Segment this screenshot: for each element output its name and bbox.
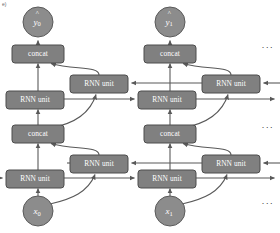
input-x0: x0 [23,196,53,226]
edge-rnn-backward-upper-t1-to-concat-upper-t1 [183,64,231,76]
ellipsis-bottom: ... [262,196,274,206]
concat-upper-t0: concat [12,45,64,63]
edge-rnn-backward-lower-t1-to-concat-lower-t1 [183,144,231,156]
rnn-backward-upper-t1-label: RNN unit [216,79,247,88]
rnn-forward-lower-t1-label: RNN unit [152,174,183,183]
rnn-architecture-diagram: y0 ^ concat RNN unit RNN unit concat RNN… [0,0,280,233]
concat-lower-t1-label: concat [160,129,181,138]
rnn-backward-lower-t1-label: RNN unit [216,159,247,168]
concat-lower-t0-label: concat [28,129,49,138]
rnn-forward-lower-t0: RNN unit [6,170,64,188]
edge-rnn-backward-upper-t0-to-concat-upper-t0 [51,64,99,76]
rnn-backward-upper-t1: RNN unit [202,75,260,93]
rnn-backward-lower-t0-label: RNN unit [84,159,115,168]
input-x1: x1 [155,196,185,226]
concat-upper-t1: concat [144,45,196,63]
ellipsis-middle: ... [262,120,274,130]
ellipsis-top: ... [262,40,274,50]
output-y1: y1 ^ [155,7,185,37]
rnn-backward-lower-t0: RNN unit [70,155,128,173]
rnn-forward-upper-t1: RNN unit [138,91,196,109]
output-y0: y0 ^ [23,7,53,37]
concat-lower-t0: concat [12,125,64,143]
edge-rnn-backward-lower-t0-to-concat-lower-t0 [51,144,99,156]
rnn-backward-upper-t0-label: RNN unit [84,79,115,88]
concat-upper-t1-label: concat [160,49,181,58]
rnn-backward-upper-t0: RNN unit [70,75,128,93]
rnn-forward-lower-t0-label: RNN unit [20,174,51,183]
concat-upper-t0-label: concat [28,49,49,58]
corner-mark: e) [2,1,7,7]
rnn-forward-upper-t0-label: RNN unit [20,95,51,104]
diagram-canvas: y0 ^ concat RNN unit RNN unit concat RNN… [0,0,280,233]
rnn-forward-upper-t0: RNN unit [6,91,64,109]
concat-lower-t1: concat [144,125,196,143]
rnn-forward-lower-t1: RNN unit [138,170,196,188]
rnn-backward-lower-t1: RNN unit [202,155,260,173]
rnn-forward-upper-t1-label: RNN unit [152,95,183,104]
